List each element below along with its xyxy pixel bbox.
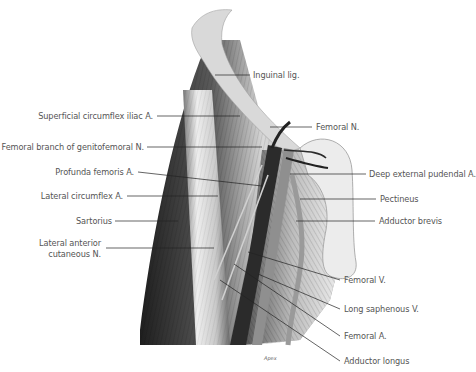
label-lateral-anterior-cutaneous-n-line1: Lateral anterior (39, 238, 101, 248)
label-superficial-circumflex-iliac-a: Superficial circumflex iliac A. (38, 111, 153, 121)
label-lateral-circumflex-a: Lateral circumflex A. (41, 191, 123, 201)
label-femoral-a: Femoral A. (344, 331, 387, 341)
label-femoral-v: Femoral V. (344, 275, 386, 285)
label-deep-external-pudendal-a: Deep external pudendal A. (369, 169, 476, 179)
label-femoral-branch-genitofemoral-n: Femoral branch of genitofemoral N. (1, 142, 144, 152)
label-adductor-brevis: Adductor brevis (379, 216, 442, 226)
artist-signature: Apex (264, 355, 277, 361)
label-profunda-femoris-a: Profunda femoris A. (55, 167, 134, 177)
label-adductor-longus: Adductor longus (344, 356, 409, 366)
label-lateral-anterior-cutaneous-n-line2: cutaneous N. (48, 249, 101, 259)
label-sartorius: Sartorius (76, 216, 112, 226)
label-long-saphenous-v: Long saphenous V. (344, 304, 419, 314)
label-pectineus: Pectineus (380, 194, 418, 204)
label-femoral-n: Femoral N. (316, 122, 359, 132)
label-inguinal-lig: Inguinal lig. (253, 70, 299, 80)
